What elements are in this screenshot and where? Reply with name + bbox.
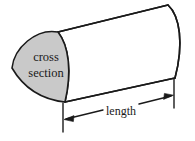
cross-section-label-line2: section [28,66,64,80]
prism-cross-section-diagram: cross section length [0,0,195,141]
length-label: length [106,104,136,118]
prism-illustration: cross section length [0,0,195,141]
prism-body [58,5,180,102]
length-arrowhead-right [164,93,174,99]
cross-section-label-line1: cross [33,50,59,64]
length-arrowhead-left [64,116,74,122]
